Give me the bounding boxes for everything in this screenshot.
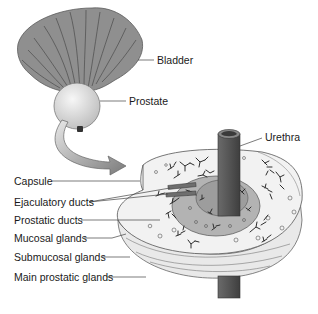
label-capsule: Capsule	[14, 175, 53, 187]
label-submucosal-glands: Submucosal glands	[14, 251, 106, 263]
label-ejaculatory-ducts: Ejaculatory ducts	[14, 196, 94, 208]
prostate-anatomy-diagram	[0, 0, 318, 314]
label-prostatic-ducts: Prostatic ducts	[14, 214, 83, 226]
label-urethra: Urethra	[265, 131, 300, 143]
curved-arrow-icon	[55, 120, 126, 175]
label-bladder: Bladder	[157, 54, 193, 66]
label-main-prostatic-glands: Main prostatic glands	[14, 271, 113, 283]
label-mucosal-glands: Mucosal glands	[14, 232, 87, 244]
prostate-cross-section	[117, 130, 302, 299]
label-prostate: Prostate	[129, 95, 168, 107]
bladder	[18, 8, 143, 92]
